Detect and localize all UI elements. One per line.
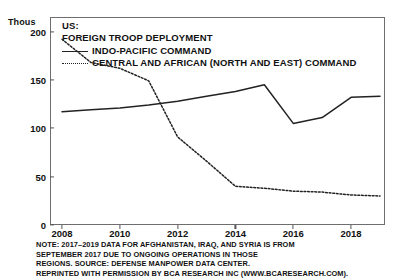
title-line-2: FOREIGN TROOP DEPLOYMENT [62, 32, 356, 44]
y-tick-label: 100 [2, 123, 46, 134]
x-tick-label: 2018 [341, 228, 362, 239]
x-tick-label: 2014 [225, 228, 246, 239]
legend-line-solid-icon [62, 51, 88, 52]
legend-label-central-african: CENTRAL AND AFRICAN (NORTH AND EAST) COM… [92, 57, 356, 69]
y-tick-mark [50, 128, 54, 129]
chart-title-and-legend: US: FOREIGN TROOP DEPLOYMENT INDO-PACIFI… [62, 20, 356, 70]
footnote-line-1: NOTE: 2017–2019 DATA FOR AFGHANISTAN, IR… [36, 240, 401, 250]
y-tick-label: 0 [2, 220, 46, 231]
legend-label-indo-pacific: INDO-PACIFIC COMMAND [92, 45, 212, 57]
x-tick-label: 2010 [109, 228, 130, 239]
y-tick-label: 50 [2, 171, 46, 182]
y-tick-mark [50, 176, 54, 177]
chart-footnote: NOTE: 2017–2019 DATA FOR AFGHANISTAN, IR… [36, 240, 401, 278]
x-tick-label: 2008 [51, 228, 72, 239]
y-tick-mark [50, 79, 54, 80]
chart-container: Thous 050100150200 200820102012201420162… [0, 0, 405, 280]
y-tick-label: 150 [2, 74, 46, 85]
legend-line-dotted-icon [62, 63, 88, 64]
footnote-line-2: SEPTEMBER 2017 DUE TO ONGOING OPERATIONS… [36, 250, 401, 260]
footnote-line-3: REGIONS. SOURCE: DEFENSE MANPOWER DATA C… [36, 259, 401, 269]
footnote-line-4: REPRINTED WITH PERMISSION BY BCA RESEARC… [36, 269, 401, 279]
y-tick-label: 200 [2, 26, 46, 37]
title-line-1: US: [62, 20, 356, 32]
x-tick-label: 2016 [283, 228, 304, 239]
x-tick-label: 2012 [167, 228, 188, 239]
legend-item-indo-pacific: INDO-PACIFIC COMMAND [62, 45, 356, 57]
y-tick-mark [50, 224, 54, 225]
legend-item-central-african: CENTRAL AND AFRICAN (NORTH AND EAST) COM… [62, 57, 356, 69]
y-tick-mark [50, 31, 54, 32]
